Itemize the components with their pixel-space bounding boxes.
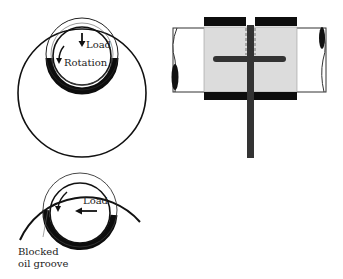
blocked-label-line1: Blocked [18,246,59,257]
load-label: Load [83,195,109,206]
bearing-diagram: Load Rotation [0,0,343,279]
bottom-left-diagram: Load Blocked oil groove [18,173,140,269]
shaft-break-left-fill [172,64,179,90]
oil-groove [213,56,286,62]
bearing-shell [46,210,114,247]
rotation-label: Rotation [64,57,108,68]
top-left-diagram: Load Rotation [18,18,146,157]
load-label: Load [86,39,112,50]
top-right-diagram [172,17,327,158]
oil-feed-pipe [247,25,254,158]
blocked-label-line2: oil groove [18,258,68,269]
large-housing-arc [20,197,140,240]
rotation-arrow-icon [56,46,64,64]
top-cap-left [204,17,246,26]
shaft-break-right-fill [319,27,325,49]
load-arrow-icon [75,208,97,215]
top-cap-right [255,17,297,26]
load-arrow-icon [79,33,86,47]
